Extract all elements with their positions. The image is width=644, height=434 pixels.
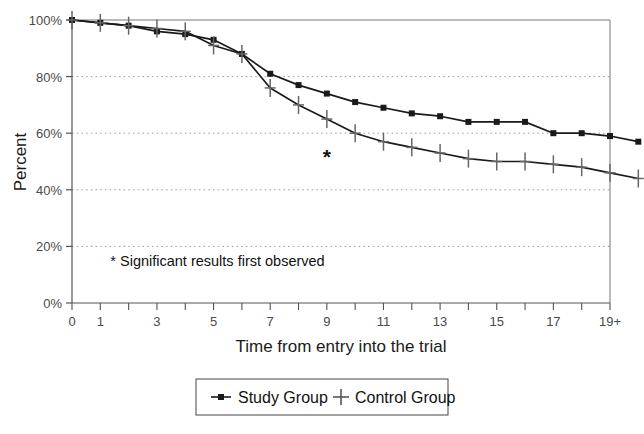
marker-square-0-8: [296, 82, 302, 88]
x-tick-label-17: 17: [546, 314, 560, 329]
marker-square-0-7: [267, 71, 273, 77]
marker-square-0-10: [352, 99, 358, 105]
x-tick-label-5: 5: [210, 314, 217, 329]
x-tick-label-11: 11: [377, 314, 391, 329]
x-tick-label-9: 9: [323, 314, 330, 329]
y-tick-label-20: 20%: [36, 239, 62, 254]
x-tick-label-1: 1: [97, 314, 104, 329]
x-tick-label-15: 15: [490, 314, 504, 329]
marker-square-0-18: [579, 130, 585, 136]
marker-square-0-9: [324, 91, 330, 97]
x-axis-ticks: 0135791113151719+: [68, 303, 621, 329]
significance-asterisk: *: [323, 145, 332, 168]
marker-square-0-19: [607, 133, 613, 139]
x-tick-label-3: 3: [153, 314, 160, 329]
x-tick-label-19: 19+: [599, 314, 621, 329]
x-axis-title: Time from entry into the trial: [236, 337, 447, 356]
marker-square-0-16: [522, 119, 528, 125]
marker-square-0-17: [550, 130, 556, 136]
x-tick-label-7: 7: [267, 314, 274, 329]
y-axis-ticks: 0%20%40%60%80%100%: [29, 13, 72, 311]
survival-curve-chart: 0%20%40%60%80%100% 0135791113151719+ * *…: [0, 0, 644, 434]
y-tick-label-40: 40%: [36, 183, 62, 198]
marker-square-0-20: [635, 139, 641, 145]
legend-square-marker-icon: [218, 394, 224, 400]
chart-figure: 0%20%40%60%80%100% 0135791113151719+ * *…: [0, 0, 644, 434]
marker-square-0-13: [437, 113, 443, 119]
marker-square-0-15: [494, 119, 500, 125]
x-tick-label-0: 0: [68, 314, 75, 329]
y-tick-label-60: 60%: [36, 126, 62, 141]
y-axis-title: Percent: [11, 132, 30, 191]
marker-square-0-12: [409, 110, 415, 116]
chart-legend: Study Group Control Group: [196, 379, 456, 415]
legend-label-control-group: Control Group: [355, 389, 456, 406]
y-tick-label-0: 0%: [43, 296, 62, 311]
marker-square-0-11: [380, 105, 386, 111]
significance-note-label: * Significant results first observed: [110, 253, 324, 269]
marker-square-0-14: [465, 119, 471, 125]
y-tick-label-100: 100%: [29, 13, 63, 28]
y-tick-label-80: 80%: [36, 70, 62, 85]
legend-label-study-group: Study Group: [238, 389, 328, 406]
x-tick-label-13: 13: [433, 314, 447, 329]
